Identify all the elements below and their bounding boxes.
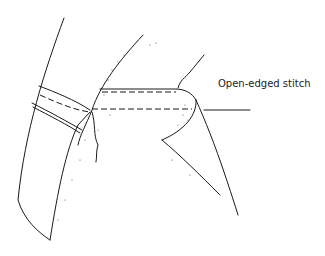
left-panel-inner-edge (50, 112, 90, 240)
right-panel-curve (78, 35, 143, 145)
seam-drawing (0, 0, 325, 256)
flap-curve (162, 100, 196, 140)
flap-right-line (196, 100, 238, 215)
flap-top-edge (100, 89, 196, 100)
illustration: Open-edged stitch (0, 0, 325, 256)
fold-squiggle (92, 112, 98, 162)
band-stitch-line (40, 95, 90, 112)
band-top-edge (39, 86, 90, 110)
flap-lower-line (162, 140, 220, 195)
band-bottom-edge-2 (33, 107, 80, 133)
left-panel-outer-edge (18, 18, 64, 240)
thread-squiggle (178, 55, 204, 88)
band-bottom-edge (32, 103, 82, 130)
callout-label: Open-edged stitch (218, 78, 311, 89)
